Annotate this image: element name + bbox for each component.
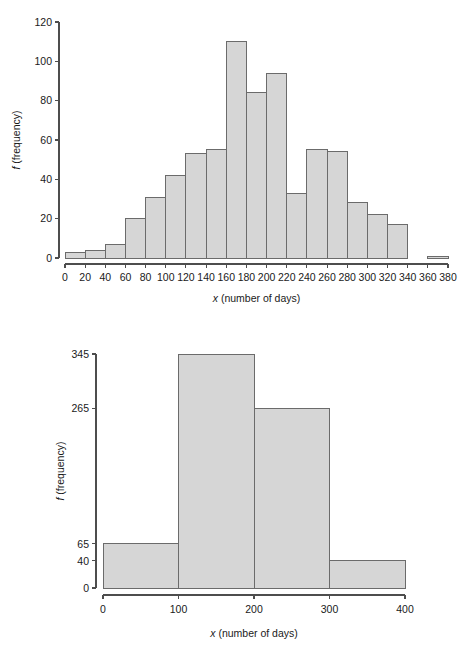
- x-axis-tick-label: 200: [258, 271, 276, 283]
- histogram-bar: [206, 150, 226, 258]
- histogram-bar: [307, 150, 327, 258]
- x-axis-tick-label: 200: [245, 603, 263, 615]
- bottom-histogram-svg: 040652653450100200300400x (number of day…: [0, 320, 458, 655]
- x-axis-tick-label: 120: [177, 271, 195, 283]
- x-axis-tick-label: 320: [379, 271, 397, 283]
- x-axis-tick-label: 360: [419, 271, 437, 283]
- x-axis-tick-label: 340: [399, 271, 417, 283]
- bottom-histogram-figure: 040652653450100200300400x (number of day…: [0, 320, 458, 655]
- top-histogram-figure: 0204060801001200204060801001201401601802…: [0, 0, 458, 320]
- bars-group: [65, 42, 448, 258]
- histogram-bar: [105, 244, 125, 258]
- x-axis-tick-label: 0: [100, 603, 106, 615]
- x-axis-tick-label: 240: [298, 271, 316, 283]
- histogram-bar: [103, 544, 179, 588]
- y-axis: 020406080100120: [34, 16, 59, 264]
- x-axis-tick-label: 60: [120, 271, 132, 283]
- x-axis-tick-label: 300: [359, 271, 377, 283]
- x-axis-title: x (number of days): [212, 292, 301, 304]
- x-axis-tick-label: 100: [157, 271, 175, 283]
- y-axis-tick-label: 65: [77, 538, 89, 550]
- histogram-bar: [226, 42, 246, 258]
- y-axis-title: f (frequency): [54, 442, 66, 501]
- x-axis-tick-label: 140: [197, 271, 215, 283]
- histogram-bar: [254, 408, 330, 588]
- y-axis-tick-label: 60: [40, 134, 52, 146]
- y-axis-title: f (frequency): [10, 111, 22, 170]
- histogram-bar: [65, 252, 85, 258]
- histogram-bar: [388, 225, 408, 258]
- y-axis: 04065265345: [71, 348, 96, 594]
- x-axis-tick-label: 80: [140, 271, 152, 283]
- y-axis-tick-label: 40: [77, 555, 89, 567]
- histogram-bar: [367, 215, 387, 258]
- histogram-bar: [347, 203, 367, 258]
- histogram-bar: [287, 193, 307, 258]
- y-axis-tick-label: 100: [34, 55, 52, 67]
- histogram-bar: [166, 175, 186, 258]
- x-axis-tick-label: 400: [396, 603, 414, 615]
- y-axis-tick-label: 345: [71, 348, 89, 360]
- x-axis-tick-label: 260: [318, 271, 336, 283]
- x-axis: 0204060801001201401601802002202402602803…: [62, 264, 457, 283]
- histogram-bar: [125, 219, 145, 258]
- x-axis-tick-label: 160: [217, 271, 235, 283]
- histogram-bar: [267, 73, 287, 258]
- histogram-bar: [146, 197, 166, 258]
- x-axis-tick-label: 380: [439, 271, 457, 283]
- x-axis-tick-label: 300: [321, 603, 339, 615]
- histogram-bar: [186, 154, 206, 258]
- histogram-bar: [330, 561, 406, 588]
- bars-group: [103, 354, 405, 588]
- y-axis-tick-label: 120: [34, 16, 52, 28]
- histogram-bar: [428, 256, 448, 258]
- histogram-figure-page: { "page": { "title": "Two histograms of …: [0, 0, 458, 655]
- histogram-bar: [85, 250, 105, 258]
- x-axis-tick-label: 280: [338, 271, 356, 283]
- x-axis-tick-label: 40: [99, 271, 111, 283]
- x-axis-tick-label: 0: [62, 271, 68, 283]
- y-axis-tick-label: 0: [46, 252, 52, 264]
- y-axis-tick-label: 80: [40, 94, 52, 106]
- x-axis-tick-label: 20: [79, 271, 91, 283]
- histogram-bar: [179, 354, 255, 588]
- x-axis-tick-label: 220: [278, 271, 296, 283]
- x-axis-tick-label: 100: [170, 603, 188, 615]
- histogram-bar: [327, 152, 347, 258]
- y-axis-tick-label: 265: [71, 402, 89, 414]
- x-axis-title: x (number of days): [209, 627, 298, 639]
- y-axis-tick-label: 40: [40, 173, 52, 185]
- x-axis-tick-label: 180: [238, 271, 256, 283]
- x-axis: 0100200300400: [100, 595, 414, 615]
- y-axis-tick-label: 20: [40, 212, 52, 224]
- y-axis-tick-label: 0: [83, 582, 89, 594]
- top-histogram-svg: 0204060801001200204060801001201401601802…: [0, 0, 458, 320]
- histogram-bar: [246, 93, 266, 258]
